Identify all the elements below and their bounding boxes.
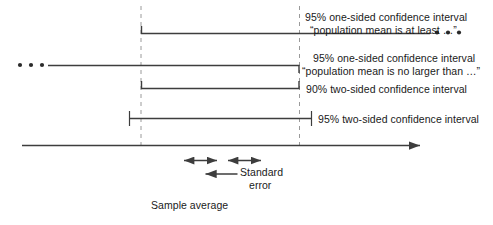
label-ci-90-two-sided: 90% two-sided confidence interval xyxy=(306,83,467,96)
ellipsis-dot xyxy=(18,63,22,67)
label-ci-95-one-sided-upper-line2: “population mean is no larger than …” xyxy=(302,65,480,78)
diagram-canvas: 95% one-sided confidence interval “popul… xyxy=(0,0,493,225)
interval-ci-95-two-sided xyxy=(129,111,312,126)
label-ci-95-two-sided: 95% two-sided confidence interval xyxy=(318,113,479,126)
label-standard-error-line2: error xyxy=(249,179,271,192)
label-standard-error-line1: Standard xyxy=(240,166,283,179)
label-sample-average: Sample average xyxy=(151,199,228,212)
label-ci-95-one-sided-lower-line1: 95% one-sided confidence interval xyxy=(305,11,467,24)
interval-ci-95-one-sided-upper xyxy=(18,63,299,73)
label-ci-95-one-sided-lower-line2: “population mean is at least …” xyxy=(310,24,457,37)
ellipsis-dot xyxy=(457,30,461,34)
label-ci-95-one-sided-upper-line1: 95% one-sided confidence interval xyxy=(313,52,475,65)
ellipsis-dot xyxy=(40,63,44,67)
ellipsis-dot xyxy=(29,63,33,67)
interval-ci-90-two-sided xyxy=(142,81,300,89)
